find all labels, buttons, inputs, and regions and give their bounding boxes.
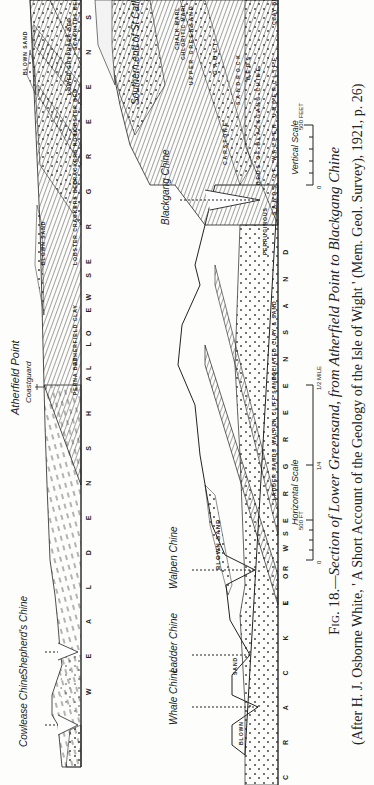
v-scale-500ft: 500 FEET <box>298 103 304 130</box>
ferruginous-label: FERRUGINOUS <box>262 207 268 255</box>
walpen-chine-label: Walpen Chine <box>168 526 179 589</box>
lower-section <box>95 0 278 785</box>
blown-sand-upper-label: BLOWN SAND <box>40 221 46 265</box>
chloritic-marl-label: CHLORITIC MARL <box>180 3 186 60</box>
horizontal-scale-bar <box>306 385 313 560</box>
atherfield-clay-label: ATHERFIELD CLAY <box>72 304 78 365</box>
st-catherines-hill-label: Southern end of St Catherine's Hill <box>130 0 141 105</box>
cross-section-drawing <box>0 0 374 785</box>
foliated-label: FOLIATED CLAY & SAND <box>271 300 277 380</box>
v-scale-zero: 0 <box>316 186 322 189</box>
coastguard-label: Coastguard <box>23 362 34 403</box>
blown-sand-upper-label-2: BLOWN SAND <box>22 31 28 75</box>
blackgang-chine-label: Blackgang Chine <box>160 149 171 225</box>
lobster-crackers-label: LOBSTER CRACKERS BED <box>72 179 78 265</box>
carstone-label: CARSTONE <box>222 121 228 165</box>
vertical-scale-bar <box>304 125 313 185</box>
atherfield-point-label: Atherfield Point <box>10 340 21 415</box>
lobster-bed-label: LOBSTER BED <box>72 88 78 135</box>
figure-caption: Fig. 18.—Section of Lower Greensand, fro… <box>326 147 343 635</box>
sands-walpen-label: SANDS OF WALPEN UNDERCLIFF <box>271 55 277 215</box>
figure-number: Fig. 18. <box>326 589 342 635</box>
blown-sand-lower-label: BLOWN SAND <box>215 519 221 570</box>
h-scale-zero: 0 <box>316 561 322 564</box>
clay-bed-label: CLAY BED <box>271 0 277 25</box>
lower-greensand-lower-label: L O W E R G R E E N S A N D <box>282 240 289 605</box>
h-scale-quarter: 1/4 <box>316 462 322 470</box>
ladder-chine-label: Ladder Chine <box>168 613 179 673</box>
whale-chine-label: Whale Chine <box>168 668 179 725</box>
blown-label: BLOWN <box>238 721 244 745</box>
gault-label: GAULT <box>212 40 218 75</box>
h-scale-500ft: 500 FT <box>298 511 304 530</box>
walpen-cliff-label: WALPEN CLIFF SANDS <box>271 371 277 445</box>
beds-label: BEDS <box>245 54 251 80</box>
beds-blackgang-label: BEDS OF BLACKGANG CHINE <box>255 66 261 185</box>
shepherds-chine-label: Shepherd's Chine <box>18 596 29 675</box>
crackers-rock-label: CRACKERS ROCK <box>72 128 78 185</box>
figure-title: —Section of Lower Greensand, from Atherf… <box>326 147 342 589</box>
scaphites-beds-label: SCAPHITES BEDS <box>72 0 78 50</box>
figure-source: (After H. J. Osborne White, ' A Short Ac… <box>350 84 366 745</box>
figure-canvas: Cowlease Chine Shepherd's Chine Atherfie… <box>0 0 374 785</box>
sandrock-label: SANDROCK <box>235 52 241 105</box>
ladder-sands-label: LADDER SANDS <box>271 448 277 500</box>
sand-label: SAND <box>232 657 238 675</box>
cowlease-chine-label: Cowlease Chine <box>18 674 29 747</box>
upper-greensand-label: UPPER GREENSAND <box>188 4 194 85</box>
lower-greensand-upper-label: L O W E R G R E E N S A N D <box>85 0 92 370</box>
h-scale-half-mile: 1/2 MILE <box>316 366 322 390</box>
